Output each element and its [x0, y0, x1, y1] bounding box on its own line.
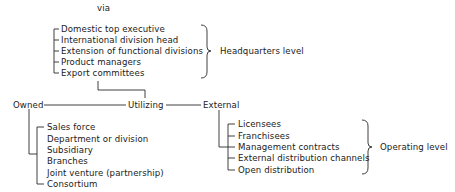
hq-item: Product managers	[61, 57, 141, 67]
owned-item: Joint venture (partnership)	[47, 168, 164, 178]
hq-item: Extension of functional divisions	[61, 46, 203, 56]
external-item: Franchisees	[238, 131, 290, 141]
hq-item: International division head	[61, 35, 178, 45]
operating-level-label: Operating level	[380, 142, 448, 152]
external-item: Open distribution	[238, 165, 314, 175]
owned-list-bracket	[37, 127, 44, 184]
external-label: External	[203, 100, 239, 110]
owned-item: Consortium	[47, 179, 98, 189]
external-connector	[219, 110, 228, 147]
via-label: via	[97, 3, 110, 13]
external-item: Licensees	[238, 119, 281, 129]
owned-label: Owned	[13, 100, 43, 110]
owned-connector	[29, 109, 37, 154]
owned-item: Subsidiary	[47, 145, 93, 155]
external-item: Management contracts	[238, 142, 340, 152]
hq-item: Export committees	[61, 68, 144, 78]
owned-item: Sales force	[47, 122, 95, 132]
hq-item: Domestic top executive	[61, 24, 165, 34]
operating-brace	[362, 120, 372, 174]
owned-item: Department or division	[47, 134, 148, 144]
headquarters-level-label: Headquarters level	[220, 46, 304, 56]
external-item: External distribution channels	[238, 153, 370, 163]
utilizing-label: Utilizing	[128, 100, 164, 110]
hq-to-utilizing-connector	[98, 81, 145, 98]
owned-item: Branches	[47, 156, 88, 166]
